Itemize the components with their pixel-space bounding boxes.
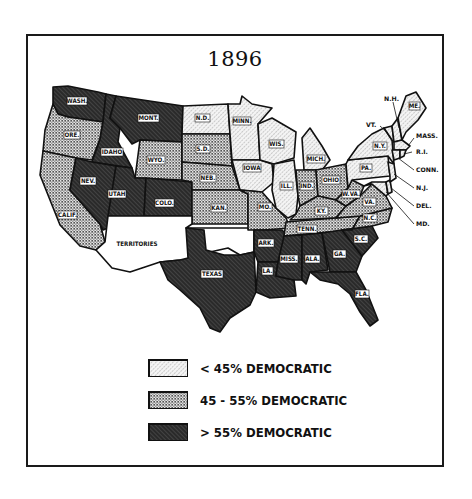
svg-text:MO.: MO.	[259, 203, 271, 210]
label-ky: KY.	[315, 207, 328, 215]
label-ark: ARK.	[258, 239, 274, 247]
state-nj[interactable]	[388, 162, 396, 182]
svg-text:TERRITORIES: TERRITORIES	[117, 240, 158, 247]
label-nc: N.C.	[363, 214, 377, 222]
state-colo[interactable]	[144, 178, 192, 216]
svg-text:MONT.: MONT.	[139, 114, 159, 121]
svg-text:MD.: MD.	[416, 220, 430, 227]
svg-text:S.D.: S.D.	[197, 145, 210, 152]
svg-text:DEL.: DEL.	[416, 202, 432, 209]
svg-text:KY.: KY.	[317, 207, 326, 214]
legend-item-mid: 45 - 55% DEMOCRATIC	[148, 384, 347, 416]
label-ga: GA.	[333, 250, 346, 258]
state-mich[interactable]	[302, 128, 330, 170]
light-hatch-swatch-icon	[148, 359, 188, 377]
label-nev: NEV.	[80, 177, 96, 185]
label-ind: IND.	[300, 182, 314, 190]
label-ore: ORE.	[64, 131, 80, 139]
svg-text:VT.: VT.	[366, 121, 376, 128]
svg-text:ME.: ME.	[409, 102, 420, 109]
svg-text:GA.: GA.	[334, 250, 345, 257]
label-nj: N.J.	[394, 174, 428, 192]
label-miss: MISS.	[280, 255, 298, 263]
svg-text:IOWA: IOWA	[244, 164, 262, 171]
svg-text:COLO.: COLO.	[155, 199, 174, 206]
svg-text:TENN.: TENN.	[297, 225, 316, 232]
svg-text:N.D.: N.D.	[196, 114, 210, 121]
label-tenn: TENN.	[297, 225, 317, 233]
legend-label: 45 - 55% DEMOCRATIC	[200, 393, 347, 408]
legend-label: < 45% DEMOCRATIC	[200, 361, 332, 376]
label-iowa: IOWA	[243, 164, 261, 172]
svg-text:N.C.: N.C.	[364, 214, 377, 221]
label-me: ME.	[409, 102, 420, 110]
dark-hatch-swatch-icon	[148, 423, 188, 441]
label-mass: MASS.	[408, 132, 438, 146]
svg-text:MINN.: MINN.	[232, 117, 251, 124]
svg-text:OHIO: OHIO	[323, 176, 339, 183]
state-fla[interactable]	[310, 272, 378, 326]
svg-text:IND.: IND.	[300, 182, 313, 189]
svg-text:ILL.: ILL.	[281, 182, 292, 189]
svg-text:UTAH: UTAH	[109, 190, 126, 197]
label-kan: KAN.	[211, 204, 227, 212]
svg-text:N.J.: N.J.	[416, 184, 428, 192]
svg-text:R.I.: R.I.	[416, 148, 428, 155]
svg-text:CONN.: CONN.	[416, 166, 439, 173]
svg-text:ALA.: ALA.	[305, 255, 319, 262]
svg-text:ARK.: ARK.	[258, 239, 273, 246]
label-sc: S.C.	[354, 235, 368, 243]
label-minn: MINN.	[232, 117, 251, 125]
svg-text:PA.: PA.	[361, 164, 371, 171]
label-md: MD.	[386, 192, 430, 227]
state-mass[interactable]	[394, 140, 410, 150]
label-wash: WASH.	[67, 97, 88, 105]
label-territories: TERRITORIES	[117, 240, 158, 247]
label-mo: MO.	[258, 203, 272, 211]
label-ala: ALA.	[305, 255, 320, 263]
svg-text:N.H.: N.H.	[384, 95, 399, 102]
svg-text:WIS.: WIS.	[269, 140, 283, 147]
label-wyo: WYO.	[147, 156, 165, 164]
label-conn: CONN.	[398, 158, 439, 173]
svg-text:NEV.: NEV.	[81, 177, 95, 184]
label-mont: MONT.	[138, 114, 159, 122]
svg-text:ORE.: ORE.	[65, 131, 80, 138]
label-neb: NEB.	[200, 174, 216, 182]
svg-text:VA.: VA.	[364, 198, 374, 205]
label-idaho: IDAHO	[101, 148, 123, 156]
label-va: VA.	[363, 198, 376, 206]
svg-text:MICH.: MICH.	[307, 155, 325, 162]
svg-text:MISS.: MISS.	[280, 255, 297, 262]
label-sd: S.D.	[196, 145, 210, 153]
svg-text:TEXAS: TEXAS	[202, 270, 222, 277]
label-wva: W.VA.	[342, 190, 360, 198]
checker-swatch-icon	[148, 391, 188, 409]
label-del: DEL.	[391, 188, 432, 209]
label-la: LA.	[262, 267, 273, 275]
legend-item-high: > 55% DEMOCRATIC	[148, 416, 347, 448]
label-texas: TEXAS	[201, 270, 223, 278]
label-colo: COLO.	[155, 199, 174, 207]
svg-text:W.VA.: W.VA.	[342, 190, 360, 197]
label-ill: ILL.	[280, 182, 293, 190]
label-pa: PA.	[360, 164, 372, 172]
svg-text:KAN.: KAN.	[211, 204, 226, 211]
svg-text:LA.: LA.	[262, 267, 272, 274]
label-nd: N.D.	[195, 114, 210, 122]
legend-label: > 55% DEMOCRATIC	[200, 425, 332, 440]
label-ny: N.Y.	[373, 142, 387, 150]
legend-item-low: < 45% DEMOCRATIC	[148, 352, 347, 384]
label-fla: FLA.	[355, 290, 369, 298]
svg-text:MASS.: MASS.	[416, 132, 438, 139]
label-calif: CALIF.	[58, 211, 77, 219]
label-utah: UTAH	[108, 190, 126, 198]
label-wis: WIS.	[269, 140, 284, 148]
label-ohio: OHIO	[322, 176, 340, 184]
label-mich: MICH.	[307, 155, 325, 163]
svg-text:NEB.: NEB.	[201, 174, 216, 181]
svg-text:N.Y.: N.Y.	[374, 142, 386, 149]
map-legend: < 45% DEMOCRATIC 45 - 55% DEMOCRATIC > 5…	[148, 352, 347, 448]
svg-text:IDAHO: IDAHO	[102, 148, 123, 155]
svg-text:S.C.: S.C.	[355, 235, 367, 242]
